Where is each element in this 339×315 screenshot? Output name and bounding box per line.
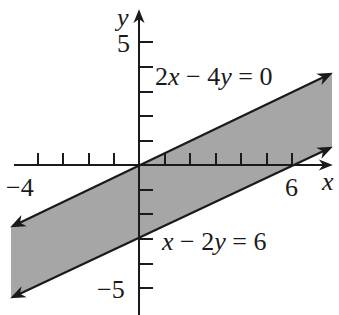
y-axis-label: y	[114, 3, 129, 32]
equation-label-lower: x − 2y = 6	[161, 227, 266, 256]
y-tick-label-neg5: −5	[97, 275, 125, 304]
x-tick-label-6: 6	[285, 173, 298, 202]
shaded-region	[11, 73, 332, 298]
y-tick-label-5: 5	[117, 29, 130, 58]
x-tick-label-neg4: −4	[6, 173, 34, 202]
x-axis-label: x	[321, 167, 334, 196]
equation-label-upper: 2x − 4y = 0	[155, 62, 272, 91]
inequality-graph: y x −4 6 5 −5 2x − 4y = 0 x − 2y = 6	[0, 0, 339, 315]
